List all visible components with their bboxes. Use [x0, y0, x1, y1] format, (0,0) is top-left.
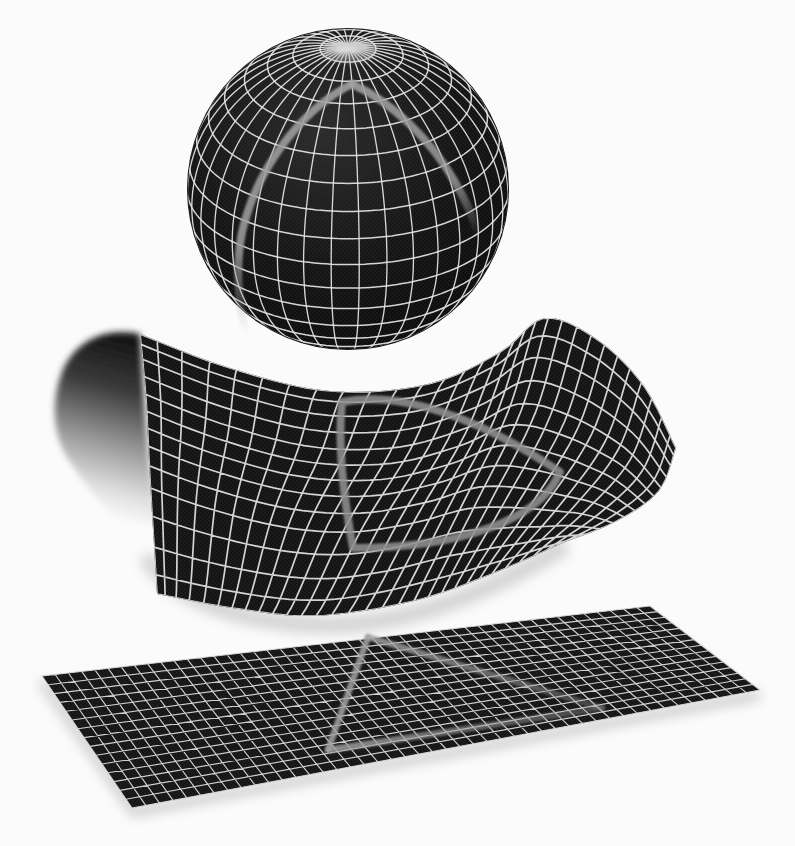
sphere-pole-highlight-core — [336, 46, 358, 55]
sphere-surface — [187, 28, 509, 350]
curvature-figure — [0, 0, 795, 846]
figure-svg — [0, 0, 795, 846]
